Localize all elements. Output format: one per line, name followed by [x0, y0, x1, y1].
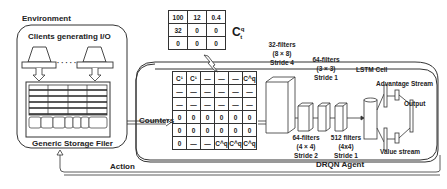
value-stream-label: Value stream	[380, 147, 420, 156]
q-value-table: 100 12 0.4 32 0 0 0 0 0	[168, 10, 226, 50]
q-cell: 0	[207, 24, 226, 37]
action-label: Action	[110, 162, 135, 171]
counter-cell: —	[215, 85, 229, 98]
counter-cell: —	[173, 85, 187, 98]
counter-cell: —	[173, 98, 187, 111]
drqn-agent-title: DRQN Agent	[316, 160, 364, 169]
counter-cell: 0	[201, 111, 215, 124]
counters-grid: C¹ C¹ — — — C^q — — — — — — — — — — — — …	[172, 71, 257, 150]
counter-cell: —	[187, 137, 201, 150]
counter-cell: —	[243, 98, 257, 111]
q-cell: 0.4	[207, 11, 226, 24]
counter-cell: —	[229, 98, 243, 111]
clients-label: Clients generating I/O	[28, 32, 111, 41]
conv2-label: 64-filters(4 × 4)Stride 2	[288, 133, 324, 160]
counter-cell: C^q	[243, 137, 257, 150]
counter-cell: C^q	[215, 137, 229, 150]
advantage-stream-label: Advantage Stream	[376, 79, 433, 88]
output-label: Output	[404, 99, 425, 108]
q-cell: 0	[188, 24, 207, 37]
counter-cell: 0	[173, 124, 187, 137]
counter-cell: C^q	[229, 137, 243, 150]
q-cell: 100	[169, 11, 188, 24]
conv4-label: 512 filters(4x4)Stride 1	[326, 133, 366, 160]
counter-cell: 0	[215, 124, 229, 137]
counter-cell: —	[215, 98, 229, 111]
counter-cell: —	[201, 85, 215, 98]
counter-cell: C¹	[187, 72, 201, 85]
counter-cell: 0	[243, 124, 257, 137]
q-cell: 0	[169, 37, 188, 50]
counter-cell: 0	[187, 111, 201, 124]
clients-ellipsis: · · · · ·	[57, 59, 76, 66]
environment-title: Environment	[22, 14, 71, 23]
counter-cell: 0	[201, 124, 215, 137]
lstm-label: LSTM Cell	[356, 65, 387, 74]
counter-cell: 0	[243, 111, 257, 124]
counter-cell: 0	[187, 124, 201, 137]
q-cell: 12	[188, 11, 207, 24]
counter-cell: —	[243, 85, 257, 98]
counter-cell: —	[201, 137, 215, 150]
counter-cell: —	[229, 72, 243, 85]
q-cell: 0	[207, 37, 226, 50]
q-table-label: Cqt	[232, 25, 242, 40]
counter-cell: —	[201, 72, 215, 85]
conv1-label: 32-filters(8 × 8)Stride 4	[262, 40, 302, 67]
counter-cell: —	[187, 98, 201, 111]
counter-cell: —	[215, 72, 229, 85]
counters-label: Counters	[139, 116, 174, 125]
counter-cell: 0	[173, 137, 187, 150]
counter-cell: 0	[229, 124, 243, 137]
q-cell: 32	[169, 24, 188, 37]
counter-cell: 0	[173, 111, 187, 124]
counter-cell: C^q	[243, 72, 257, 85]
counter-cell: —	[201, 98, 215, 111]
counter-cell: 0	[229, 111, 243, 124]
counter-cell: —	[229, 85, 243, 98]
counter-cell: C¹	[173, 72, 187, 85]
q-cell: 0	[188, 37, 207, 50]
counter-cell: —	[187, 85, 201, 98]
conv3-label: 64-filters(3 × 3)Stride 1	[306, 55, 346, 82]
counter-cell: 0	[215, 111, 229, 124]
storage-filer-label: Generic Storage Filer	[32, 139, 113, 148]
